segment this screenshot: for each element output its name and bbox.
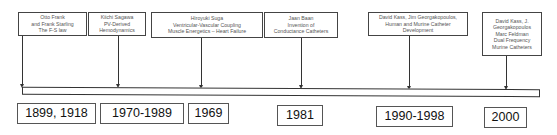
connector-arrow xyxy=(201,38,202,85)
event-line: Conductance Catheters xyxy=(267,28,335,34)
connector-arrow xyxy=(118,36,119,84)
connector-arrow xyxy=(301,38,302,85)
connector-arrow xyxy=(409,36,410,86)
year-box-1970-1989: 1970-1989 xyxy=(100,103,184,124)
event-box-frank-starling: Otto Frank and Frank Starling The F-S la… xyxy=(18,12,87,36)
year-box-1990-1998: 1990-1998 xyxy=(376,106,453,127)
event-box-suga: Hiroyuki Suga Ventricular-Vascular Coupl… xyxy=(151,12,263,38)
year-box-1981: 1981 xyxy=(277,105,323,126)
event-line: Hemodynamics xyxy=(91,27,143,33)
event-line: The F-S law xyxy=(21,27,84,33)
year-box-2000: 2000 xyxy=(484,107,527,128)
event-box-sagawa: Kiichi Sagawa PV-Derived Hemodynamics xyxy=(88,12,146,36)
event-box-baan: Jaan Baan Invention of Conductance Cathe… xyxy=(264,12,338,38)
year-box-1899-1918: 1899, 1918 xyxy=(17,103,96,124)
event-box-kass-georgakopoulos: David Kass, Jim Georgakopoulos, Human an… xyxy=(368,12,468,36)
connector-arrow xyxy=(506,56,507,86)
event-line: Muscle Energetics – Heart Failure xyxy=(154,28,260,34)
year-box-1969: 1969 xyxy=(188,103,229,124)
timeline-bar xyxy=(22,87,540,97)
event-box-dual-frequency: David Kass, J. Georgakopoulos Marc Feldm… xyxy=(482,12,542,56)
connector-arrow xyxy=(22,36,23,84)
event-line: Murine Catheters xyxy=(485,44,539,50)
event-line: Human and Murine Catheter Development xyxy=(371,21,465,34)
